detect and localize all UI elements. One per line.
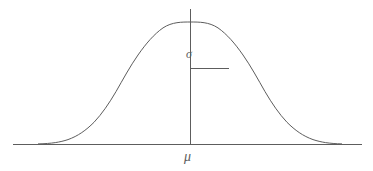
std-dev-label: σ	[186, 48, 192, 60]
mean-label: μ	[184, 150, 191, 164]
normal-distribution-plot	[0, 0, 373, 171]
bell-curve-figure: μ σ	[0, 0, 373, 171]
plot-strokes	[13, 9, 362, 145]
